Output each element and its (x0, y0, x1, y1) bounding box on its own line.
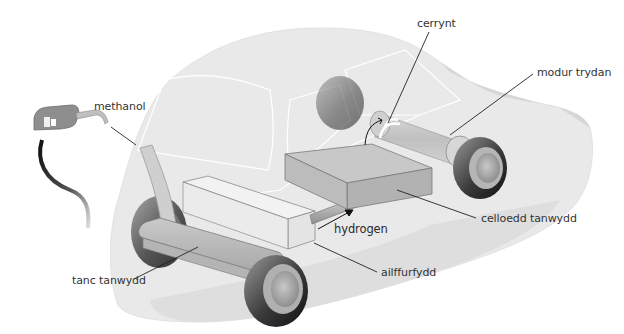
label-cerrynt: cerrynt (417, 17, 456, 30)
label-modur-trydan: modur trydan (537, 66, 611, 79)
label-tanc-tanwydd: tanc tanwydd (72, 274, 146, 287)
near-rear-wheel (453, 137, 507, 199)
label-celloedd-tanwydd: celloedd tanwydd (481, 212, 577, 225)
fuel-nozzle (34, 105, 108, 228)
near-front-wheel (244, 255, 308, 327)
leader-methanol (111, 127, 136, 145)
label-methanol: methanol (94, 100, 145, 113)
label-ailffurfydd: ailffurfydd (381, 266, 436, 279)
label-hydrogen: hydrogen (334, 223, 388, 236)
